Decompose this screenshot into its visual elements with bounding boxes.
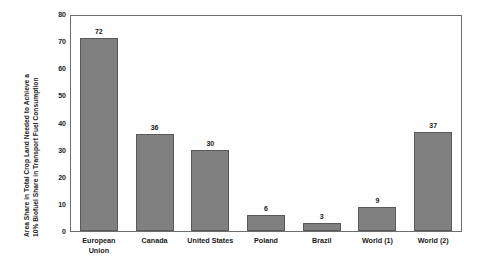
y-tick-label: 30 bbox=[50, 147, 66, 155]
x-tick-label-world-2: World (2) bbox=[405, 236, 461, 266]
x-tick-label-line: United States bbox=[182, 236, 238, 246]
x-axis-tick-labels: European Union Canada United States Pola… bbox=[71, 236, 461, 266]
x-tick-label-line: World (1) bbox=[350, 236, 406, 246]
y-axis-title-line-1: Area Share in Total Crop Land Needed to … bbox=[22, 74, 32, 237]
x-tick-label-united-states: United States bbox=[182, 236, 238, 266]
bar-value-label: 36 bbox=[135, 124, 175, 132]
bar-value-label: 3 bbox=[302, 213, 342, 221]
bar-rect[interactable] bbox=[191, 150, 229, 231]
bar-group-united-states[interactable]: 30 bbox=[182, 16, 238, 231]
bar-rect[interactable] bbox=[136, 134, 174, 231]
bar-series: 72 36 30 6 3 9 37 bbox=[71, 16, 461, 231]
x-tick-label-line: World (2) bbox=[405, 236, 461, 246]
y-tick-label: 0 bbox=[50, 228, 66, 236]
x-tick-label-line: Poland bbox=[238, 236, 294, 246]
bar-rect[interactable] bbox=[358, 207, 396, 231]
bar-group-world-1[interactable]: 9 bbox=[350, 16, 406, 231]
x-tick-label-brazil: Brazil bbox=[294, 236, 350, 266]
x-tick-label-canada: Canada bbox=[127, 236, 183, 266]
x-tick-label-poland: Poland bbox=[238, 236, 294, 266]
y-tick-label: 60 bbox=[50, 65, 66, 73]
x-tick-label-line: Brazil bbox=[294, 236, 350, 246]
y-tick-label: 50 bbox=[50, 92, 66, 100]
y-tick-label: 20 bbox=[50, 174, 66, 182]
y-axis-tick-labels: 80 70 60 50 40 30 20 10 0 bbox=[46, 15, 66, 232]
bar-rect[interactable] bbox=[303, 223, 341, 231]
bar-group-canada[interactable]: 36 bbox=[127, 16, 183, 231]
y-tick-label: 70 bbox=[50, 38, 66, 46]
bar-chart-figure: Area Share in Total Crop Land Needed to … bbox=[0, 0, 488, 269]
bar-value-label: 72 bbox=[79, 28, 119, 36]
bar-rect[interactable] bbox=[247, 215, 285, 231]
bar-group-poland[interactable]: 6 bbox=[238, 16, 294, 231]
y-tick-label: 40 bbox=[50, 120, 66, 128]
bar-group-brazil[interactable]: 3 bbox=[294, 16, 350, 231]
x-tick-label-world-1: World (1) bbox=[350, 236, 406, 266]
bar-group-european-union[interactable]: 72 bbox=[71, 16, 127, 231]
x-tick-label-european-union: European Union bbox=[71, 236, 127, 266]
bar-rect[interactable] bbox=[80, 38, 118, 232]
y-tick-label: 10 bbox=[50, 201, 66, 209]
bar-value-label: 6 bbox=[246, 205, 286, 213]
bar-rect[interactable] bbox=[414, 132, 452, 231]
bar-value-label: 37 bbox=[413, 122, 453, 130]
y-tick-label: 80 bbox=[50, 11, 66, 19]
bar-value-label: 30 bbox=[190, 140, 230, 148]
bar-value-label: 9 bbox=[357, 197, 397, 205]
y-axis-title-line-2: 10% Biofuel Share in Transport Fuel Cons… bbox=[31, 77, 41, 237]
x-tick-label-line: European bbox=[71, 236, 127, 246]
bar-group-world-2[interactable]: 37 bbox=[405, 16, 461, 231]
x-tick-label-line: Canada bbox=[127, 236, 183, 246]
x-tick-label-line: Union bbox=[71, 246, 127, 256]
